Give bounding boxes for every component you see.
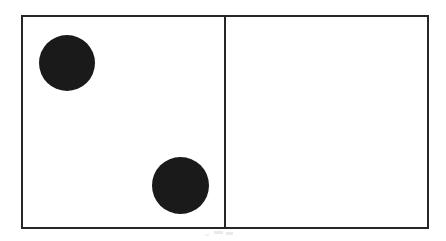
right-panel[interactable] [228,17,427,227]
circle-shape-2[interactable] [152,157,209,214]
scan-artifact [226,232,233,235]
figure-root [0,0,446,241]
right-panel-label [228,17,229,18]
scan-artifact [205,234,209,236]
scan-artifact [214,231,223,234]
panel-divider [224,16,226,228]
left-panel-label [25,17,26,18]
circle-shape-1[interactable] [39,35,95,91]
